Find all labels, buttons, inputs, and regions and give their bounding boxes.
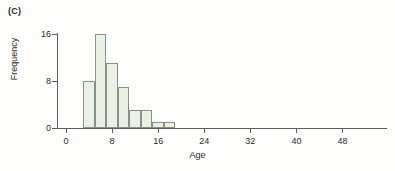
y-tick bbox=[52, 81, 57, 82]
x-tick-label: 40 bbox=[281, 136, 311, 146]
chart-figure: (C) Frequency Age 0816 081624324048 bbox=[0, 0, 395, 171]
histogram-bar bbox=[118, 87, 130, 128]
y-axis-title: Frequency bbox=[9, 24, 19, 94]
x-tick bbox=[158, 128, 159, 133]
x-tick bbox=[296, 128, 297, 133]
y-axis-line bbox=[57, 33, 58, 129]
histogram-bar bbox=[129, 110, 141, 128]
histogram-bar bbox=[83, 81, 95, 128]
x-tick-label: 32 bbox=[235, 136, 265, 146]
plot-area: Frequency Age 0816 081624324048 bbox=[0, 0, 395, 171]
y-tick bbox=[52, 34, 57, 35]
x-tick bbox=[342, 128, 343, 133]
x-axis-title: Age bbox=[0, 150, 395, 160]
histogram-bar bbox=[106, 63, 118, 128]
x-tick-label: 48 bbox=[327, 136, 357, 146]
histogram-bar bbox=[152, 122, 164, 128]
x-axis-line bbox=[57, 128, 387, 129]
histogram-bar bbox=[95, 34, 107, 128]
x-tick bbox=[250, 128, 251, 133]
x-tick-label: 16 bbox=[143, 136, 173, 146]
y-tick bbox=[52, 128, 57, 129]
x-tick-label: 0 bbox=[51, 136, 81, 146]
x-tick-label: 8 bbox=[97, 136, 127, 146]
x-tick bbox=[66, 128, 67, 133]
x-tick bbox=[112, 128, 113, 133]
histogram-bar bbox=[164, 122, 176, 128]
y-tick-label: 16 bbox=[29, 30, 51, 39]
y-tick-label: 8 bbox=[29, 77, 51, 86]
y-tick-label: 0 bbox=[29, 124, 51, 133]
histogram-bar bbox=[141, 110, 153, 128]
x-tick-label: 24 bbox=[189, 136, 219, 146]
x-tick bbox=[204, 128, 205, 133]
